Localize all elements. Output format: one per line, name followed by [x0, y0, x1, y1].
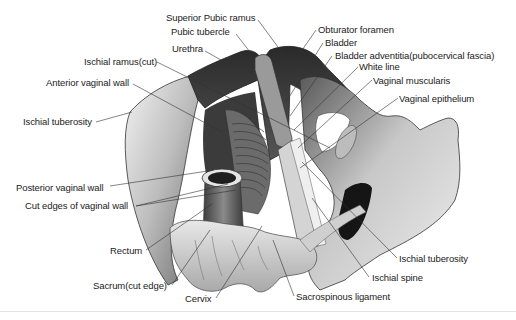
bottom-divider — [0, 311, 516, 312]
label-bladder: Bladder — [325, 37, 357, 48]
label-bladder-adventitia: Bladder adventitia(pubocervical fascia) — [335, 50, 494, 61]
label-cervix: Cervix — [185, 293, 211, 304]
label-superior-pubic-ramus: Superior Pubic ramus — [166, 12, 255, 23]
label-white-line: White line — [359, 61, 400, 72]
label-sacrum-cut-edge: Sacrum(cut edge) — [93, 280, 167, 291]
label-vaginal-epithelium: Vaginal epithelium — [399, 93, 474, 104]
label-urethra: Urethra — [172, 43, 203, 54]
label-anterior-vaginal-wall: Anterior vaginal wall — [46, 77, 129, 88]
label-vaginal-muscularis: Vaginal muscularis — [373, 75, 450, 86]
label-sacrospinous-ligament: Sacrospinous ligament — [296, 291, 390, 302]
label-ischial-tuberosity-left: Ischial tuberosity — [23, 116, 92, 127]
pelvis-illustration — [0, 0, 516, 320]
label-obturator-foramen: Obturator foramen — [318, 24, 394, 35]
label-ischial-tuberosity-right: Ischial tuberosity — [399, 253, 468, 264]
label-pubic-tubercle: Pubic tubercle — [171, 26, 230, 37]
label-ischial-spine: Ischial spine — [372, 272, 423, 283]
label-ischial-ramus-cut: Ischial ramus(cut) — [84, 56, 157, 67]
anatomy-figure: Superior Pubic ramus Pubic tubercle Uret… — [0, 0, 516, 320]
label-cut-edges-vaginal-wall: Cut edges of vaginal wall — [25, 200, 128, 211]
label-rectum: Rectum — [110, 245, 142, 256]
label-posterior-vaginal-wall: Posterior vaginal wall — [16, 182, 104, 193]
